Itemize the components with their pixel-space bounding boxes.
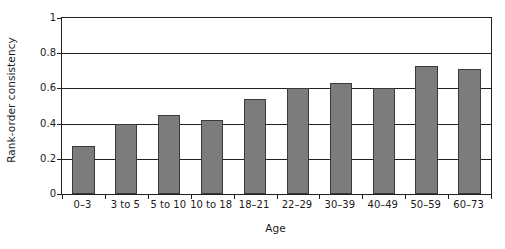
chart-screenshot: Rank-order consistency 00.20.40.60.81 0–… [0,0,505,249]
bar [72,146,94,194]
bar [373,88,395,194]
x-tick-label: 50–59 [410,199,440,210]
x-axis-tick-labels: 0–33 to 55 to 1010 to 1818–2122–2930–394… [61,199,490,217]
y-tick-label: 0.2 [26,152,56,163]
y-axis-tick-labels: 00.20.40.60.81 [22,0,56,249]
bar [158,115,180,194]
y-tick-label: 1 [26,12,56,23]
y-tick-label: 0.8 [26,47,56,58]
bar [201,120,223,194]
x-tick-label: 0–3 [74,199,92,210]
bar-series [62,18,491,194]
y-axis-title: Rank-order consistency [0,0,22,200]
x-tick-label: 3 to 5 [111,199,140,210]
x-tick-label: 60–73 [453,199,483,210]
x-tick-label: 22–29 [282,199,312,210]
bar [115,124,137,194]
x-axis-title: Age [61,222,490,234]
x-tick-label: 18–21 [239,199,269,210]
y-axis-title-text: Rank-order consistency [5,37,17,163]
bar [415,66,437,194]
bar [458,69,480,194]
y-tick-label: 0.4 [26,117,56,128]
x-tick-label: 10 to 18 [190,199,232,210]
bar [287,88,309,194]
x-tick-label: 40–49 [368,199,398,210]
bar [244,99,266,194]
bar [330,83,352,194]
x-tick-label: 30–39 [325,199,355,210]
x-tick-label: 5 to 10 [151,199,186,210]
plot-area [61,17,492,195]
y-tick-label: 0 [26,188,56,199]
x-tick-mark [491,194,492,199]
y-tick-label: 0.6 [26,82,56,93]
